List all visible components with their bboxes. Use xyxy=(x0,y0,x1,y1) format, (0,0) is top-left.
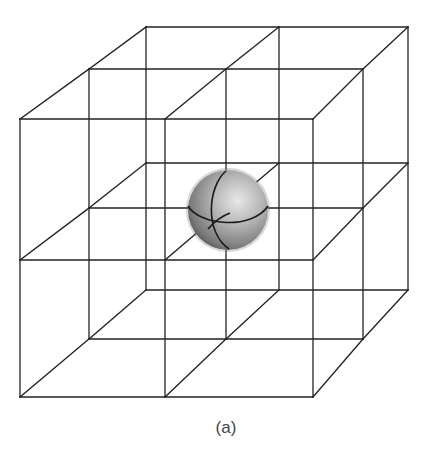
depth-edge xyxy=(165,339,226,397)
depth-edge xyxy=(165,69,226,119)
depth-edge xyxy=(20,208,89,260)
depth-edge xyxy=(89,290,146,339)
sphere xyxy=(186,168,270,252)
depth-edge xyxy=(363,163,408,208)
depth-edge xyxy=(226,27,279,69)
depth-edge xyxy=(363,27,408,69)
depth-edge xyxy=(226,290,279,339)
depth-edge xyxy=(20,339,89,397)
depth-edge xyxy=(89,27,146,69)
depth-edge xyxy=(313,208,363,260)
depth-edge xyxy=(20,69,89,119)
depth-edge xyxy=(363,290,408,339)
depth-edge xyxy=(313,69,363,119)
depth-edge xyxy=(89,163,146,208)
depth-edge xyxy=(313,339,363,397)
sphere-body xyxy=(188,170,268,250)
cubic-lattice-diagram xyxy=(0,0,424,467)
figure-caption: (a) xyxy=(0,418,424,438)
